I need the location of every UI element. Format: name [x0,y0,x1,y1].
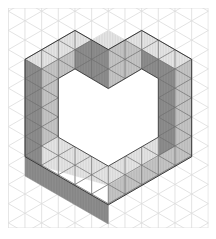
face-grid-line [0,233,216,239]
figure-canvas [0,0,216,239]
grid-line [0,233,216,239]
grid-line [0,233,216,239]
left-outer-dark-hatch [25,59,42,166]
face-grid-line [0,0,216,2]
grid-line [0,0,216,2]
face-grid-line [0,233,216,239]
grid-line [0,0,216,2]
isometric-heart-figure [0,0,216,239]
face-grid-line [0,0,216,2]
right-outer-face-hatch [175,59,192,166]
